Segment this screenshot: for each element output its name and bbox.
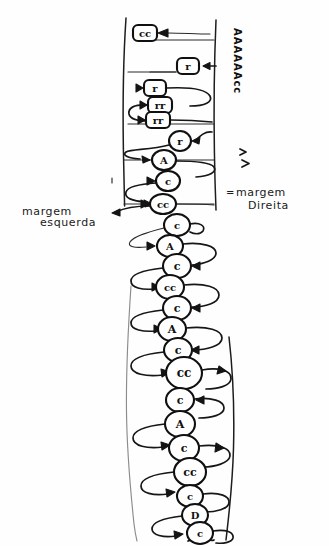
right-margin-label-line1: margem: [236, 186, 286, 199]
node-n6[interactable]: r: [169, 131, 191, 151]
node-n5[interactable]: rr: [138, 112, 170, 128]
edge-n1-right: [168, 33, 210, 34]
node-n8-glyph: c: [165, 176, 171, 187]
node-n16-glyph: c: [175, 344, 182, 357]
node-n4-glyph: rr: [155, 100, 166, 111]
vertical-note-text: AAAAAAcc: [232, 28, 243, 94]
edge-n9-to-left-label: [116, 206, 150, 212]
node-n2-glyph: r: [185, 61, 191, 72]
node-n18[interactable]: c: [166, 388, 194, 412]
node-n23-glyph: D: [191, 510, 200, 521]
node-n7[interactable]: A: [152, 150, 176, 170]
arrowhead-left-label: [112, 209, 120, 216]
handdrawn-diagram: AAAAAAcc: [0, 0, 329, 546]
arrowhead-into-n6: [192, 137, 200, 144]
vertical-note-group: AAAAAAcc: [232, 28, 243, 94]
node-n2[interactable]: r: [177, 58, 199, 74]
node-n24[interactable]: c: [187, 522, 213, 544]
node-n5-glyph: rr: [153, 115, 164, 126]
right-margin-label-prefix: =: [226, 187, 235, 198]
node-n11-glyph: A: [165, 241, 174, 252]
sketch-canvas: AAAAAAcc: [0, 0, 329, 546]
right-margin-label-line2: Direita: [248, 199, 289, 212]
arrowhead-into-n7: [142, 156, 150, 163]
node-n20-glyph: c: [181, 442, 188, 455]
node-n24-glyph: c: [197, 528, 203, 539]
edge-n7-loop-right: [176, 161, 215, 177]
right-margin-label: = margem Direita: [226, 186, 289, 212]
node-n8[interactable]: c: [147, 171, 180, 191]
right-margin-line-lower: [226, 337, 234, 540]
node-n21[interactable]: cc: [174, 458, 206, 486]
node-n10[interactable]: c: [164, 214, 190, 236]
arrowhead-into-n22: [166, 489, 175, 497]
edge-n17-loop-right: [202, 369, 231, 389]
node-n1-pointer: [158, 29, 168, 37]
arrowhead-into-n24: [174, 531, 183, 539]
edge-n19-loop-left: [133, 424, 165, 448]
caret-lower-right-icon: [242, 160, 249, 167]
node-n1[interactable]: cc: [133, 25, 168, 41]
node-n19[interactable]: A: [165, 411, 195, 437]
node-n22-glyph: c: [187, 491, 193, 502]
node-n1-glyph: cc: [139, 28, 151, 39]
arrowhead-into-n18: [196, 396, 204, 404]
node-n9-glyph: cc: [157, 199, 169, 210]
node-n3-tail: [136, 84, 143, 92]
node-n17-glyph: cc: [177, 366, 192, 380]
node-n17[interactable]: cc: [166, 357, 202, 389]
caret-upper-right-icon: [240, 149, 246, 155]
node-n10-glyph: c: [174, 220, 180, 231]
node-n13-glyph: cc: [164, 282, 176, 293]
left-margin-line-upper: [123, 18, 126, 206]
edge-n3-loop-right: [167, 88, 211, 106]
node-n21-glyph: cc: [183, 466, 197, 479]
edge-n24-loop-right: [213, 530, 233, 543]
node-n3-glyph: r: [152, 83, 158, 94]
node-n4[interactable]: rr: [140, 97, 172, 113]
node-n5-tail: [138, 116, 145, 124]
node-n20[interactable]: c: [169, 435, 199, 461]
arrowhead-n17-return: [217, 366, 226, 374]
arrowhead-n20-return: [215, 443, 224, 452]
node-n9[interactable]: cc: [141, 194, 176, 214]
left-margin-label-line2: esquerda: [40, 216, 96, 229]
node-n7-glyph: A: [159, 155, 168, 166]
node-n6-glyph: r: [177, 136, 183, 147]
node-n19-glyph: A: [175, 418, 185, 431]
arrowhead-into-n11: [147, 242, 155, 250]
node-n14-pointer: [192, 304, 200, 312]
left-margin-label: margem esquerda: [22, 205, 96, 229]
node-n18-glyph: c: [177, 394, 184, 407]
node-n15-glyph: A: [167, 323, 177, 336]
node-n3[interactable]: r: [136, 80, 166, 96]
edge-n16-loop-left: [131, 352, 164, 376]
edge-n9-right: [176, 204, 214, 205]
arrowhead-into-n2: [203, 63, 210, 70]
node-n12-glyph: c: [174, 260, 181, 273]
edge-n10-loop-right: [190, 223, 204, 233]
node-n12-pointer: [192, 262, 200, 270]
node-n14-glyph: c: [174, 302, 181, 315]
node-n4-tail: [140, 101, 147, 109]
right-margin-line-upper: [214, 20, 216, 210]
edge-n5-right: [171, 120, 212, 122]
